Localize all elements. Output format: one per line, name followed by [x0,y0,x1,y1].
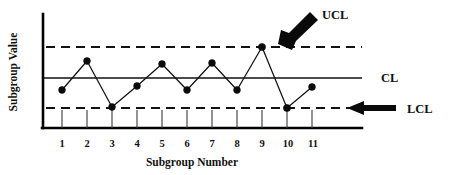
x-axis-title: Subgroup Number [146,156,238,169]
data-point-11 [309,84,316,91]
chart-background [0,0,458,175]
x-tick-label-4: 4 [134,138,140,149]
data-point-4 [134,83,141,90]
x-tick-label-6: 6 [184,138,189,149]
data-point-1 [59,87,66,94]
cl-annotation: CL [381,71,398,85]
control-chart-figure: Subgroup Value [0,0,458,175]
x-tick-label-8: 8 [234,138,239,149]
data-point-5 [159,61,166,68]
x-tick-label-9: 9 [259,138,264,149]
cl-label: CL [381,71,398,85]
y-axis-title: Subgroup Value [7,33,20,112]
data-point-2 [84,58,91,65]
x-tick-label-7: 7 [209,138,214,149]
x-tick-label-10: 10 [283,138,294,149]
data-point-9 [258,43,265,50]
data-point-3 [109,104,116,111]
data-point-7 [209,60,216,67]
spc-control-chart: Subgroup Value [0,0,458,175]
x-tick-label-11: 11 [308,138,318,149]
x-tick-label-1: 1 [59,138,64,149]
data-point-10 [283,104,290,111]
lcl-label: LCL [407,102,433,116]
x-tick-label-3: 3 [109,138,114,149]
data-point-6 [184,87,191,94]
x-tick-label-5: 5 [159,138,164,149]
data-point-8 [234,87,241,94]
ucl-label: UCL [322,8,348,22]
x-tick-label-2: 2 [84,138,89,149]
